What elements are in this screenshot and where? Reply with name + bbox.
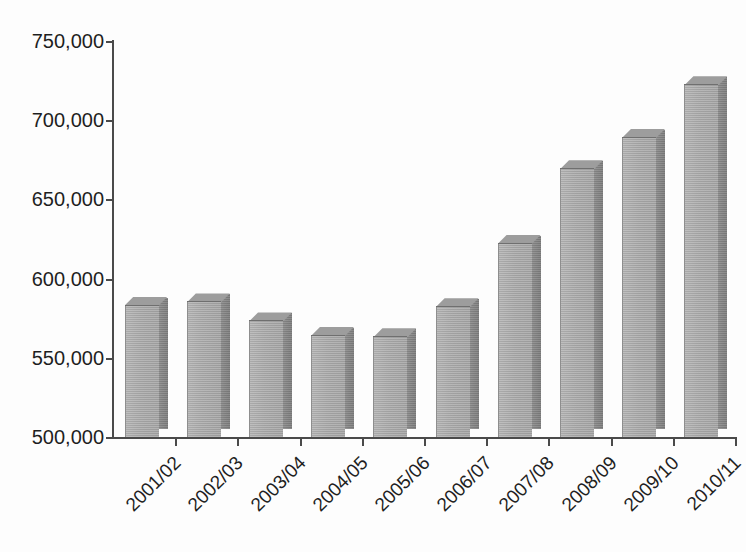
x-axis-tick-mark [735,437,737,446]
bar-top-edge [373,336,407,337]
bar-top-edge [436,306,470,307]
bar-top-edge [622,137,656,138]
bar-front-face [436,307,470,437]
bar-top-edge [684,84,718,85]
y-axis-tick-label: 650,000 [32,188,104,211]
x-axis-tick-label: 2002/03 [184,452,248,516]
bar-front-face [560,169,594,437]
y-axis-tick-mark [106,279,113,281]
bar-side-face [656,130,665,429]
bar-top-edge [311,335,345,336]
x-axis-tick-label: 2006/07 [433,452,497,516]
x-axis-tick-mark [611,437,613,446]
y-axis-tick-label: 550,000 [32,347,104,370]
y-axis-tick-mark [106,437,113,439]
bar-front-face [373,337,407,437]
bar-front-face [249,321,283,437]
bar-side-face [407,329,416,429]
bar[interactable] [498,235,541,437]
x-axis-tick-mark [548,437,550,446]
bar[interactable] [311,327,354,437]
x-axis-tick-label: 2003/04 [246,452,310,516]
bar[interactable] [249,312,292,437]
y-axis-tick-mark [106,41,113,43]
x-axis-tick-mark [300,437,302,446]
x-axis-tick-label: 2009/10 [619,452,683,516]
x-axis-tick-mark [673,437,675,446]
bar-top-edge [249,320,283,321]
bar-side-face [221,294,230,429]
y-axis-tick-mark [106,199,113,201]
bar-top-edge [187,301,221,302]
x-axis-tick-label: 2001/02 [122,452,186,516]
bar-top-edge [560,168,594,169]
bar[interactable] [436,298,479,437]
y-axis-tick-label: 750,000 [32,30,104,53]
bar-side-face [470,299,479,429]
bar-side-face [532,236,541,429]
bar-side-face [718,77,727,429]
bar-side-face [345,328,354,429]
bar[interactable] [560,160,603,437]
bar-side-face [283,313,292,429]
bar[interactable] [684,76,727,437]
bar-top-edge [498,243,532,244]
bar[interactable] [125,297,168,437]
y-axis-tick-label: 500,000 [32,426,104,449]
x-axis-tick-mark [175,437,177,446]
bar-chart: 500,000550,000600,000650,000700,000750,0… [0,0,746,552]
bar-top-edge [125,305,159,306]
x-axis-tick-mark [486,437,488,446]
y-axis-tick-label: 600,000 [32,268,104,291]
y-axis-tick-label: 700,000 [32,109,104,132]
bar-front-face [125,306,159,437]
x-axis-tick-label: 2005/06 [370,452,434,516]
x-axis-tick-mark [362,437,364,446]
bar-side-face [159,298,168,429]
x-axis-tick-label: 2007/08 [495,452,559,516]
bar-side-face [594,161,603,429]
y-axis-tick-mark [106,358,113,360]
plot-area: 500,000550,000600,000650,000700,000750,0… [113,41,735,437]
bar-front-face [684,85,718,437]
x-axis-tick-label: 2010/11 [682,452,745,515]
y-axis-tick-mark [106,120,113,122]
x-axis-tick-mark [424,437,426,446]
bar[interactable] [187,293,230,437]
bar[interactable] [373,328,416,437]
bar-front-face [311,336,345,437]
x-axis-tick-mark [237,437,239,446]
x-axis-tick-label: 2004/05 [308,452,372,516]
x-axis-tick-label: 2008/09 [557,452,621,516]
bar-front-face [498,244,532,437]
bar-front-face [622,138,656,437]
bar[interactable] [622,129,665,437]
bar-front-face [187,302,221,437]
